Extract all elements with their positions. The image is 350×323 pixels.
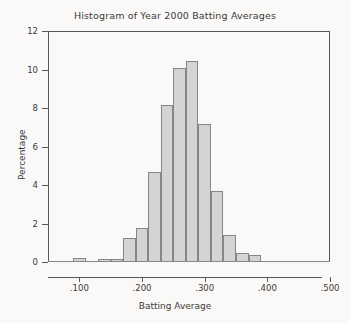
y-axis-tick <box>42 262 48 263</box>
histogram-bar <box>98 259 111 262</box>
x-axis-tick-label: .400 <box>247 284 287 293</box>
x-axis-tick-label: .200 <box>122 284 162 293</box>
histogram-bar <box>223 235 236 262</box>
x-axis-tick <box>79 277 80 282</box>
y-axis-title: Percentage <box>17 129 27 180</box>
histogram-bar <box>198 124 211 262</box>
chart-title: Histogram of Year 2000 Batting Averages <box>0 10 350 21</box>
x-axis-tick <box>142 277 143 282</box>
y-axis-tick-label: 0 <box>0 258 38 267</box>
histogram-bar <box>161 105 174 262</box>
histogram-bar <box>236 253 249 262</box>
x-axis-tick <box>205 277 206 282</box>
plot-area <box>48 31 330 262</box>
histogram-bar <box>211 191 224 262</box>
y-axis-tick-label: 2 <box>0 220 38 229</box>
histogram-figure: Histogram of Year 2000 Batting Averages … <box>0 0 350 323</box>
histogram-bar <box>73 258 86 262</box>
x-axis-tick-label: .500 <box>310 284 350 293</box>
y-axis-tick-label: 8 <box>0 104 38 113</box>
histogram-bar <box>173 68 186 262</box>
x-axis-tick-label: .300 <box>185 284 225 293</box>
x-axis-tick-label: .100 <box>59 284 99 293</box>
x-axis-line <box>48 277 322 278</box>
histogram-bar <box>249 255 262 262</box>
histogram-bar <box>136 228 149 262</box>
histogram-bar <box>148 172 161 262</box>
y-axis-tick-label: 10 <box>0 66 38 75</box>
histogram-bar <box>123 238 136 262</box>
x-axis-tick <box>330 277 331 282</box>
histogram-bar <box>186 61 199 262</box>
x-axis-tick <box>267 277 268 282</box>
y-axis-tick-label: 12 <box>0 27 38 36</box>
histogram-bar <box>111 259 124 262</box>
y-axis-tick-label: 4 <box>0 181 38 190</box>
y-axis-tick-label: 6 <box>0 143 38 152</box>
x-axis-title: Batting Average <box>0 301 350 311</box>
